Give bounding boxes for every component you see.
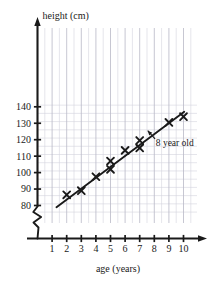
y-axis-arrowhead xyxy=(34,17,40,26)
x-tick-label: 1 xyxy=(50,243,55,254)
x-tick-label: 9 xyxy=(166,243,171,254)
y-tick-label: 80 xyxy=(21,200,31,211)
y-tick-label: 140 xyxy=(16,101,31,112)
axes xyxy=(27,17,207,242)
chart-canvas: 809010011012013014012345678910height (cm… xyxy=(0,0,211,284)
x-tick-label: 7 xyxy=(137,243,142,254)
x-tick-label: 3 xyxy=(79,243,84,254)
y-tick-label: 90 xyxy=(21,183,31,194)
x-tick-label: 4 xyxy=(93,243,98,254)
y-axis-break-symbol xyxy=(33,206,41,238)
x-tick-label: 10 xyxy=(179,243,189,254)
x-axis-title: age (years) xyxy=(96,263,140,275)
y-tick-label: 130 xyxy=(16,118,31,129)
x-tick-label: 6 xyxy=(123,243,128,254)
y-tick-label: 120 xyxy=(16,134,31,145)
annotation-label: 8 year old xyxy=(156,138,194,148)
height-vs-age-chart: 809010011012013014012345678910height (cm… xyxy=(0,0,211,284)
y-tick-label: 100 xyxy=(16,167,31,178)
x-axis-arrowhead xyxy=(198,235,207,241)
x-tick-label: 5 xyxy=(108,243,113,254)
y-axis-title: height (cm) xyxy=(43,10,89,22)
x-tick-label: 2 xyxy=(64,243,69,254)
y-tick-label: 110 xyxy=(16,151,31,162)
x-tick-label: 8 xyxy=(152,243,157,254)
